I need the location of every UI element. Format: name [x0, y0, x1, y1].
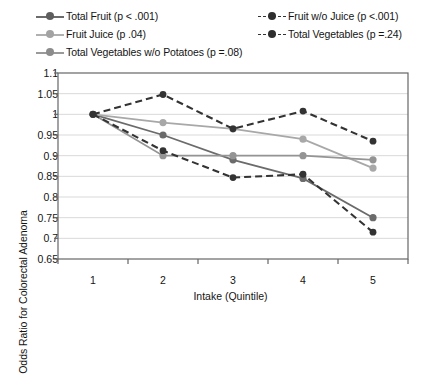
x-axis-title-text: Intake (Quintile) — [193, 290, 267, 302]
legend-label-fruit-juice: Fruit Juice (p .04) — [66, 29, 146, 40]
data-point — [160, 91, 167, 98]
data-point — [369, 164, 376, 171]
data-point — [370, 229, 377, 236]
data-point — [299, 136, 306, 143]
legend-label-fruit-wo-juice: Fruit w/o Juice (p <.001) — [288, 11, 398, 22]
data-point — [159, 119, 166, 126]
legend-marker-solid-icon — [36, 29, 64, 40]
data-point — [299, 152, 306, 159]
x-tick-label: 5 — [370, 274, 376, 286]
series-line-4 — [93, 94, 373, 141]
legend-label-total-vegetables-wo-potatoes: Total Vegetables w/o Potatoes (p =.08) — [66, 47, 242, 58]
legend-item-fruit-juice: Fruit Juice (p .04) — [36, 27, 242, 42]
data-point — [159, 131, 166, 138]
data-point — [300, 108, 307, 115]
legend-item-total-vegetables: Total Vegetables (p =.24) — [258, 27, 402, 42]
chart-legend: Total Fruit (p < .001) Fruit Juice (p .0… — [0, 0, 431, 62]
legend-marker-dashed-icon — [258, 29, 286, 40]
legend-label-total-fruit: Total Fruit (p < .001) — [66, 11, 158, 22]
x-tick-label: 1 — [90, 274, 96, 286]
data-point — [370, 138, 377, 145]
x-tick-label: 3 — [230, 274, 236, 286]
data-point — [160, 147, 167, 154]
legend-marker-dashed-icon — [258, 11, 286, 22]
legend-marker-solid-icon — [36, 47, 64, 58]
plot-svg — [0, 62, 431, 313]
data-point — [90, 111, 97, 118]
data-point — [230, 174, 237, 181]
legend-column-right: Fruit w/o Juice (p <.001) Total Vegetabl… — [258, 9, 402, 45]
x-axis-title: Intake (Quintile) — [0, 290, 431, 302]
legend-item-fruit-wo-juice: Fruit w/o Juice (p <.001) — [258, 9, 402, 24]
data-point — [369, 156, 376, 163]
x-tick-label: 2 — [160, 274, 166, 286]
data-point — [230, 125, 237, 132]
plot-area-wrapper: Odds Ratio for Colorectal Adenoma 1.11.0… — [0, 62, 431, 313]
data-point — [369, 214, 376, 221]
legend-item-total-fruit: Total Fruit (p < .001) — [36, 9, 242, 24]
x-tick-label: 4 — [300, 274, 306, 286]
legend-column-left: Total Fruit (p < .001) Fruit Juice (p .0… — [36, 9, 242, 63]
data-point — [300, 171, 307, 178]
legend-label-total-vegetables: Total Vegetables (p =.24) — [288, 29, 402, 40]
data-point — [229, 152, 236, 159]
legend-item-total-vegetables-wo-potatoes: Total Vegetables w/o Potatoes (p =.08) — [36, 45, 242, 60]
plot-frame — [58, 73, 408, 259]
legend-marker-solid-icon — [36, 11, 64, 22]
